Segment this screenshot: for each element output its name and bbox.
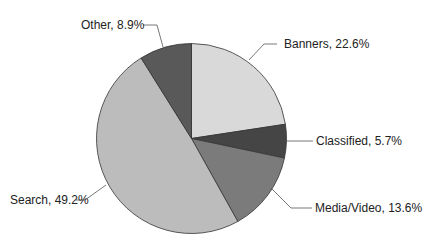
label-banners: Banners, 22.6% <box>284 37 370 51</box>
leader-line-media <box>271 188 312 208</box>
pie-slice-banners <box>192 44 286 139</box>
label-classified: Classified, 5.7% <box>316 134 402 148</box>
pie-slices <box>97 44 287 234</box>
leader-line-other <box>143 25 163 47</box>
label-media-video: Media/Video, 13.6% <box>315 201 423 215</box>
label-search: Search, 49.2% <box>10 193 89 207</box>
pie-chart: Banners, 22.6% Classified, 5.7% Media/Vi… <box>0 0 426 248</box>
label-other: Other, 8.9% <box>81 18 145 32</box>
leader-line-banners <box>249 44 277 60</box>
